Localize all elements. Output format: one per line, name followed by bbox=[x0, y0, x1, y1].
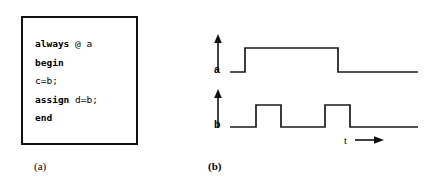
caption-panel-b: (b) bbox=[208, 160, 221, 172]
code-keyword-always: always bbox=[35, 38, 69, 49]
waveform-signal-a bbox=[230, 48, 418, 72]
code-text-assignment-c: c=b; bbox=[35, 75, 58, 86]
signal-label-b: b bbox=[214, 118, 220, 130]
verilog-code-block: always @ a begin c=b; assign d=b; end bbox=[35, 35, 145, 128]
code-keyword-begin: begin bbox=[35, 57, 64, 68]
code-line-3: c=b; bbox=[35, 72, 145, 91]
signal-label-a: a bbox=[214, 63, 220, 75]
code-text-always-rest: @ a bbox=[69, 38, 92, 49]
figure-root: always @ a begin c=b; assign d=b; end (a… bbox=[0, 0, 435, 189]
time-axis-arrow bbox=[355, 136, 384, 144]
timing-diagram-svg bbox=[195, 26, 430, 156]
code-line-2: begin bbox=[35, 54, 145, 73]
time-axis-label: t bbox=[344, 135, 347, 146]
code-keyword-assign: assign bbox=[35, 94, 69, 105]
waveform-signal-b bbox=[230, 105, 418, 127]
caption-panel-a: (a) bbox=[34, 160, 46, 172]
code-text-assignment-d: d=b; bbox=[69, 94, 98, 105]
code-line-4: assign d=b; bbox=[35, 91, 145, 110]
code-line-1: always @ a bbox=[35, 35, 145, 54]
code-line-5: end bbox=[35, 109, 145, 128]
code-box-panel-a: always @ a begin c=b; assign d=b; end bbox=[21, 16, 138, 145]
code-keyword-end: end bbox=[35, 112, 52, 123]
